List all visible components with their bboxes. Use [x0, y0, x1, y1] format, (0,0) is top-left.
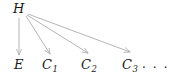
sequence-ellipsis: · · ·	[142, 62, 169, 74]
node-h-text: H	[13, 1, 24, 16]
edge-h-to-c3	[28, 14, 130, 52]
node-label-c3: C3	[122, 58, 137, 71]
node-e-text: E	[14, 57, 24, 72]
node-label-c2: C2	[81, 58, 96, 71]
causal-graph-diagram: H E C1 C2 C3 · · ·	[0, 0, 177, 78]
node-label-h: H	[13, 2, 24, 15]
node-c2-subscript: 2	[91, 64, 96, 74]
node-c3-text: C	[122, 57, 132, 72]
node-label-e: E	[14, 58, 24, 71]
edge-h-to-c2	[27, 15, 88, 53]
node-c1-subscript: 1	[52, 64, 57, 74]
node-label-c1: C1	[42, 58, 57, 71]
node-c3-subscript: 3	[132, 64, 137, 74]
node-c2-text: C	[81, 57, 91, 72]
node-c1-text: C	[42, 57, 52, 72]
